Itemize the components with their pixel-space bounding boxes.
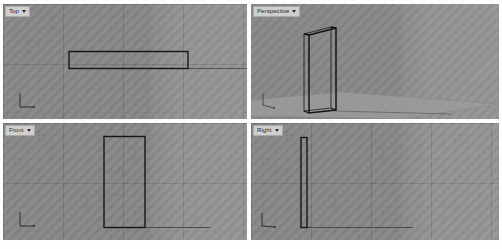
viewport-right-title-tab[interactable]: Right (253, 125, 283, 136)
viewport-right[interactable]: Right (251, 123, 499, 240)
viewport-front-background (3, 123, 247, 240)
window-margin-bottom (0, 240, 502, 249)
chevron-down-icon[interactable] (275, 129, 279, 132)
viewport-front[interactable]: Front (3, 123, 247, 240)
viewport-top[interactable]: Top (3, 4, 247, 119)
viewport-right-background (251, 123, 499, 240)
window-margin-left (0, 0, 3, 249)
viewport-splitter-vertical[interactable] (247, 0, 251, 249)
viewport-top-background (3, 4, 247, 119)
viewport-right-label: Right (257, 126, 272, 135)
chevron-down-icon[interactable] (22, 10, 26, 13)
viewport-perspective[interactable]: Perspective (251, 4, 499, 119)
viewport-right-axis-gizmo (259, 208, 281, 230)
viewport-front-axis-gizmo (17, 208, 39, 230)
viewport-perspective-axis-gizmo (259, 89, 281, 111)
viewport-perspective-label: Perspective (257, 7, 289, 16)
viewport-top-axis-gizmo (17, 89, 39, 111)
viewport-perspective-background (251, 4, 499, 119)
viewport-top-title-tab[interactable]: Top (5, 6, 30, 17)
cad-application-window: Top Perspective (0, 0, 502, 249)
viewport-splitter-horizontal[interactable] (0, 119, 502, 123)
chevron-down-icon[interactable] (292, 10, 296, 13)
window-margin-top (0, 0, 502, 4)
viewport-perspective-title-tab[interactable]: Perspective (253, 6, 300, 17)
viewport-front-label: Front (9, 126, 24, 135)
viewport-front-title-tab[interactable]: Front (5, 125, 35, 136)
viewport-top-label: Top (9, 7, 19, 16)
chevron-down-icon[interactable] (27, 129, 31, 132)
